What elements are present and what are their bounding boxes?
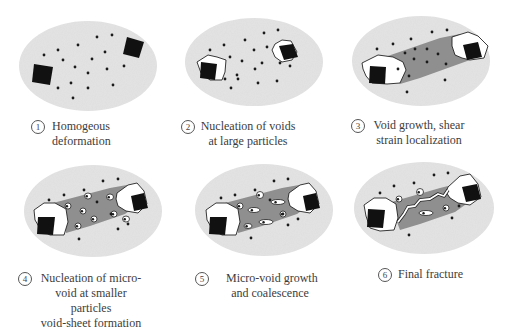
- small-particle: [458, 205, 461, 208]
- small-particle: [433, 174, 436, 177]
- small-particle: [251, 209, 253, 211]
- small-particle: [96, 36, 99, 39]
- small-particle: [117, 228, 120, 231]
- small-particle: [437, 53, 440, 56]
- caption-line: at large particles: [200, 134, 296, 149]
- stage-number-badge: 4: [18, 272, 32, 286]
- small-particle: [230, 87, 233, 90]
- stage-number-badge: 6: [378, 268, 392, 282]
- micro-void: [85, 193, 92, 199]
- stage-caption-6: Final fracture: [398, 267, 464, 282]
- small-particle: [282, 213, 285, 216]
- small-particle: [426, 61, 429, 64]
- small-particle: [266, 46, 269, 49]
- caption-line: void-sheet formation: [40, 316, 142, 331]
- small-particle: [87, 72, 90, 75]
- small-particle: [83, 189, 86, 192]
- small-particle: [287, 224, 290, 227]
- small-particle: [62, 59, 65, 62]
- small-particle: [258, 194, 260, 196]
- small-particle: [261, 62, 264, 65]
- small-particle: [418, 191, 420, 193]
- small-particle: [413, 58, 416, 61]
- small-particle: [124, 218, 126, 220]
- small-particle: [406, 91, 409, 94]
- caption-line: and coalescence: [226, 286, 314, 301]
- caption-line: Void growth, shear: [373, 118, 465, 133]
- small-particle: [43, 54, 46, 57]
- small-particle: [110, 213, 113, 216]
- small-particle: [91, 58, 94, 61]
- small-particle: [263, 32, 266, 35]
- small-particle: [279, 62, 282, 65]
- small-particle: [445, 63, 448, 66]
- micro-void: [244, 224, 252, 229]
- small-particle: [410, 38, 413, 41]
- small-particle: [287, 178, 290, 181]
- small-particle: [250, 237, 253, 240]
- stage-number-badge: 3: [351, 119, 365, 133]
- micro-void: [271, 200, 285, 205]
- micro-void: [419, 211, 433, 216]
- small-particle: [289, 65, 292, 68]
- small-particle: [274, 201, 276, 203]
- small-particle: [81, 210, 83, 212]
- small-particle: [237, 78, 240, 81]
- small-particle: [393, 185, 396, 188]
- small-particle: [92, 218, 94, 220]
- stage-panel-4: [24, 165, 162, 257]
- large-particle: [32, 64, 53, 85]
- stage-number-badge: 2: [181, 120, 195, 134]
- small-particle: [104, 51, 107, 54]
- small-particle: [63, 194, 66, 197]
- caption-line: particles: [40, 301, 142, 316]
- small-particle: [392, 43, 395, 46]
- micro-void: [259, 220, 273, 225]
- small-particle: [397, 198, 399, 200]
- large-particle: [367, 209, 385, 228]
- micro-void: [123, 216, 130, 222]
- stage-number-badge: 5: [195, 272, 209, 286]
- small-particle: [86, 195, 88, 197]
- small-particle: [117, 178, 120, 181]
- caption-line: Nucleation of voids: [200, 119, 296, 134]
- small-particle: [254, 189, 257, 192]
- caption-line: deformation: [52, 134, 110, 149]
- small-particle: [87, 87, 90, 90]
- small-particle: [253, 49, 256, 52]
- small-particle: [72, 97, 75, 100]
- small-particle: [376, 48, 379, 51]
- small-particle: [224, 78, 227, 81]
- micro-void: [107, 194, 114, 200]
- small-particle: [77, 44, 80, 47]
- small-particle: [234, 194, 237, 197]
- small-particle: [220, 197, 223, 200]
- small-particle: [112, 84, 115, 87]
- small-particle: [48, 199, 51, 202]
- small-particle: [257, 82, 260, 85]
- stage-caption-1: Homogeousdeformation: [52, 119, 110, 149]
- small-particle: [273, 180, 276, 183]
- large-particle: [200, 62, 217, 80]
- large-particle: [37, 217, 55, 235]
- micro-void: [417, 189, 424, 196]
- stage-panel-1: [19, 21, 157, 111]
- small-particle: [238, 205, 240, 207]
- small-particle: [223, 44, 226, 47]
- small-particle: [426, 48, 429, 51]
- small-particle: [297, 218, 300, 221]
- stage-panel-2: [185, 18, 323, 106]
- small-particle: [106, 68, 109, 71]
- small-particle: [78, 238, 81, 241]
- caption-line: void at smaller: [40, 286, 142, 301]
- small-particle: [276, 80, 279, 83]
- caption-line: Micro-void growth: [226, 271, 314, 286]
- small-particle: [96, 201, 99, 204]
- small-particle: [241, 60, 244, 63]
- small-particle: [262, 221, 264, 223]
- stage-caption-3: Void growth, shearstrain localization: [373, 118, 465, 148]
- small-particle: [422, 212, 424, 214]
- small-particle: [229, 56, 232, 59]
- stage-panel-3: [352, 16, 490, 106]
- small-particle: [254, 68, 257, 71]
